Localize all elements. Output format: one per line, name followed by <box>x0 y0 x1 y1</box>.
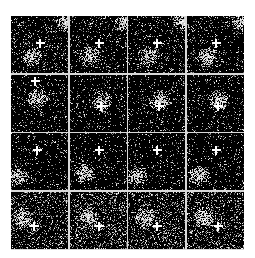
image-panel <box>128 133 185 190</box>
image-panel <box>128 16 185 73</box>
image-panel <box>187 16 244 73</box>
image-panel <box>70 133 127 190</box>
image-panel <box>128 192 185 249</box>
image-panel <box>11 133 68 190</box>
image-panel <box>70 75 127 132</box>
image-panel <box>70 16 127 73</box>
image-panel <box>70 192 127 249</box>
image-panel <box>128 75 185 132</box>
image-grid <box>11 16 244 250</box>
image-panel <box>11 75 68 132</box>
image-panel <box>11 192 68 249</box>
image-panel <box>11 16 68 73</box>
image-panel <box>187 75 244 132</box>
image-panel <box>187 133 244 190</box>
image-panel <box>187 192 244 249</box>
